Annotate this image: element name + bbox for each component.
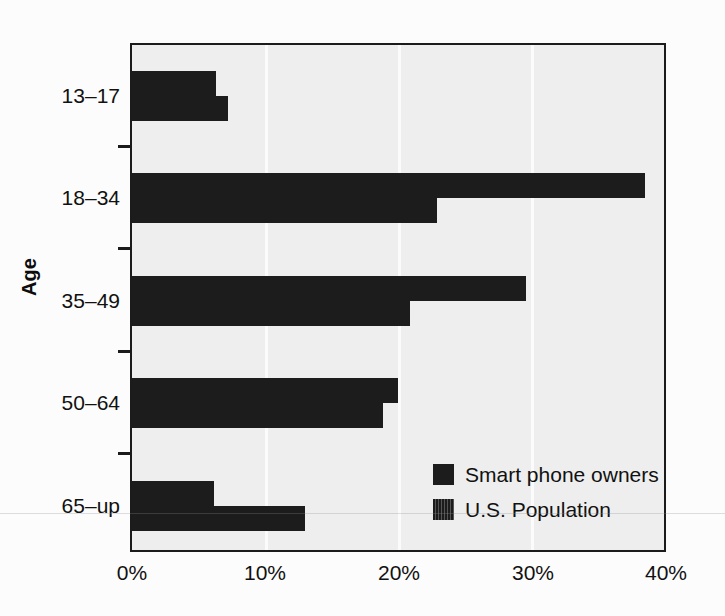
bar-population-13-17 — [132, 96, 228, 121]
bar-population-65-up — [132, 506, 305, 531]
bar-population-50-64 — [132, 403, 383, 428]
x-tick-label-40: 40% — [645, 561, 687, 585]
x-tick-label-20: 20% — [378, 561, 420, 585]
legend-item-smart-phone-owners: Smart phone owners — [433, 461, 659, 487]
bar-smartphone-50-64 — [132, 378, 398, 403]
x-tick-label-0: 0% — [117, 561, 147, 585]
legend-label-smart-phone-owners: Smart phone owners — [465, 464, 659, 485]
legend-swatch-icon-smart-phone-owners — [433, 464, 454, 485]
bar-chart: Age 13–17 18–34 35–49 50–64 65–up — [0, 0, 725, 616]
y-tick-label-13-17: 13–17 — [0, 84, 120, 108]
y-tick-label-50-64: 50–64 — [0, 391, 120, 415]
x-tick-label-10: 10% — [244, 561, 286, 585]
plot-area: Smart phone owners U.S. Population — [130, 43, 666, 552]
bar-population-18-34 — [132, 198, 437, 223]
y-tick-label-35-49: 35–49 — [0, 289, 120, 313]
bar-smartphone-35-49 — [132, 276, 526, 301]
x-tick-label-30: 30% — [512, 561, 554, 585]
y-tick-label-18-34: 18–34 — [0, 186, 120, 210]
bar-smartphone-65-up — [132, 481, 214, 506]
legend-label-us-population: U.S. Population — [465, 499, 611, 520]
legend-swatch-icon-us-population — [433, 499, 454, 520]
bar-smartphone-18-34 — [132, 173, 645, 198]
bar-smartphone-13-17 — [132, 71, 216, 96]
bar-population-35-49 — [132, 301, 410, 326]
legend: Smart phone owners U.S. Population — [433, 461, 659, 531]
legend-item-us-population: U.S. Population — [433, 496, 659, 522]
y-tick-label-65-up: 65–up — [0, 494, 120, 518]
